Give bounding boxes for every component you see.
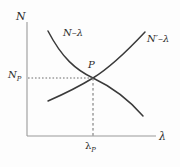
x-tick-label-lambdap: λP	[85, 141, 96, 154]
supply-curve	[48, 32, 145, 101]
demand-curve	[48, 31, 143, 116]
y-tick-base: N	[8, 69, 17, 80]
y-axis-label: N	[16, 11, 26, 22]
supply-curve-label: N′–λ	[147, 34, 169, 44]
y-tick-subscript: P	[17, 75, 22, 83]
economics-diagram: N λ NP λP P N–λ N′–λ	[0, 0, 180, 167]
intersection-point-label: P	[88, 60, 95, 70]
y-tick-label-np: NP	[8, 70, 21, 83]
x-tick-subscript: P	[91, 146, 96, 154]
x-axis-label: λ	[159, 131, 166, 142]
demand-curve-label: N–λ	[63, 28, 83, 38]
